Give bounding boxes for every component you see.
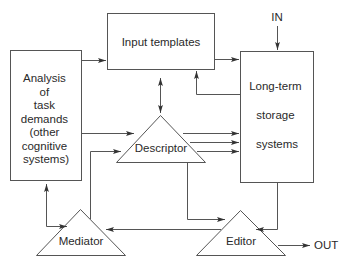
descriptor-label: Descriptor: [135, 142, 188, 154]
diagram-canvas: Analysis of task demands (other cognitiv…: [0, 0, 345, 262]
analysis-label-line-5: (other: [29, 126, 59, 138]
edge-storage-to-input-templates: [197, 71, 241, 95]
analysis-of-task-demands-node: Analysis of task demands (other cognitiv…: [11, 51, 82, 181]
edge-mediator-to-descriptor: [91, 152, 122, 220]
editor-node: Editor: [197, 211, 286, 256]
analysis-label-line-3: task: [34, 99, 55, 111]
editor-label: Editor: [226, 235, 256, 247]
in-terminal-label: IN: [271, 11, 283, 23]
storage-label-line-3: systems: [256, 138, 298, 150]
analysis-label-line-2: of: [40, 86, 50, 98]
mediator-label: Mediator: [59, 235, 104, 247]
analysis-label-line-7: systems): [23, 153, 69, 165]
analysis-label-line-4: demands: [21, 113, 69, 125]
storage-label-line-2: storage: [256, 109, 294, 121]
long-term-storage-node: Long-term storage systems: [241, 52, 314, 183]
analysis-label-line-6: cognitive: [22, 140, 67, 152]
input-templates-label: Input templates: [122, 36, 201, 48]
storage-label-line-1: Long-term: [249, 80, 301, 92]
input-templates-node: Input templates: [108, 14, 215, 70]
analysis-label-line-1: Analysis: [23, 72, 66, 84]
edge-storage-to-editor: [256, 182, 278, 230]
descriptor-node: Descriptor: [117, 116, 206, 163]
edge-descriptor-to-editor: [188, 162, 226, 220]
mediator-node: Mediator: [37, 210, 126, 256]
out-terminal-label: OUT: [314, 239, 338, 251]
edge-analysis-mediator-bidirectional: [47, 184, 68, 227]
svg-text:Long-term storage: Long-term storage systems: [249, 80, 305, 150]
